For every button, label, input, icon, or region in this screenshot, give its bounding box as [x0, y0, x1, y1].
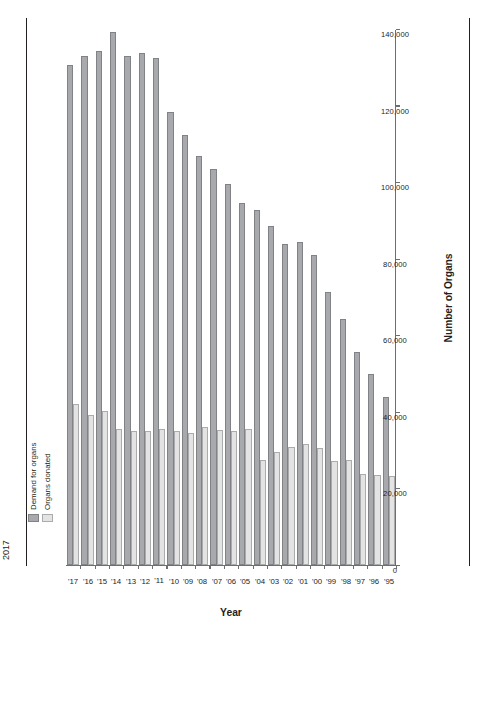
bar-donated [73, 404, 79, 565]
bar-donated [288, 447, 294, 565]
bar-donated [231, 431, 237, 565]
bar-donated [331, 461, 337, 565]
category-tick-label: '98 [341, 577, 351, 586]
category-tick-label: '05 [240, 577, 250, 586]
category-axis-line [66, 565, 396, 566]
category-tick [367, 566, 368, 570]
page-rule-bottom [469, 18, 470, 566]
value-tick-label: 80,000 [383, 260, 407, 269]
bar-donated [245, 429, 251, 565]
category-tick [238, 566, 239, 570]
legend-swatch-icon [28, 514, 39, 522]
legend-item: Organs donated [42, 442, 53, 522]
value-tick-label: 40,000 [383, 413, 407, 422]
category-tick [152, 566, 153, 570]
bar-donated [317, 448, 323, 565]
category-tick [224, 566, 225, 570]
category-tick-label: '04 [255, 577, 265, 586]
bar-donated [360, 474, 366, 565]
legend-swatch-icon [42, 514, 53, 522]
figure-page: EXHIBIT 29.1 Demand for Organs and Total… [0, 0, 495, 712]
bar-donated [260, 460, 266, 565]
category-tick-label: '97 [355, 577, 365, 586]
category-tick-label: '99 [326, 577, 336, 586]
category-tick-label: '13 [125, 577, 135, 586]
category-tick-label: '02 [283, 577, 293, 586]
value-tick-label: 60,000 [383, 336, 407, 345]
bar-donated [303, 444, 309, 565]
bar-donated [159, 429, 165, 565]
bar-donated [217, 430, 223, 565]
page-rule-top [26, 18, 27, 566]
category-tick [195, 566, 196, 570]
exhibit-caption-text: Demand for Organs and Total Number of Or… [0, 410, 14, 560]
bar-donated [88, 415, 94, 565]
category-tick-label: '11 [154, 576, 164, 585]
category-tick-label: '09 [183, 577, 193, 586]
category-tick-label: '17 [68, 577, 78, 586]
category-tick [281, 566, 282, 570]
category-tick [296, 566, 297, 570]
chart-legend: Demand for organsOrgans donated [28, 442, 53, 522]
category-tick-label: '01 [298, 577, 308, 586]
category-tick [80, 566, 81, 570]
bar-donated [174, 431, 180, 565]
category-tick [166, 566, 167, 570]
legend-label: Demand for organs [29, 442, 38, 510]
bar-donated [131, 431, 137, 565]
category-tick-label: '00 [312, 577, 322, 586]
category-tick [181, 566, 182, 570]
legend-item: Demand for organs [28, 442, 39, 522]
category-tick [353, 566, 354, 570]
category-tick-label: '16 [82, 577, 92, 586]
value-axis-title: Number of Organs [443, 254, 454, 343]
category-tick [123, 566, 124, 570]
category-tick-label: '10 [169, 577, 179, 586]
category-tick-label: '12 [140, 577, 150, 586]
bar-donated [374, 475, 380, 565]
category-tick [310, 566, 311, 570]
category-tick [95, 566, 96, 570]
category-tick-label: '03 [269, 577, 279, 586]
category-tick [324, 566, 325, 570]
exhibit-caption: EXHIBIT 29.1 Demand for Organs and Total… [0, 410, 14, 560]
category-tick [209, 566, 210, 570]
category-tick-label: '07 [212, 577, 222, 586]
bar-donated [274, 452, 280, 565]
category-tick [138, 566, 139, 570]
category-tick-label: '14 [111, 577, 121, 586]
value-tick-label: 100,000 [381, 183, 409, 192]
plot-area: 020,00040,00060,00080,000100,000120,0001… [66, 30, 396, 566]
category-tick [339, 566, 340, 570]
category-tick [396, 566, 397, 570]
bar-donated [188, 433, 194, 565]
bar-donated [145, 431, 151, 565]
category-tick [253, 566, 254, 570]
bar-donated [102, 411, 108, 565]
bar-donated [346, 460, 352, 565]
category-tick [267, 566, 268, 570]
bar-chart: Demand for organsOrgans donated 020,0004… [30, 30, 450, 566]
category-tick [109, 566, 110, 570]
category-tick-label: '08 [197, 577, 207, 586]
value-tick-label: 140,000 [381, 30, 409, 39]
category-tick-label: '15 [97, 577, 107, 586]
value-tick-label: 20,000 [383, 489, 407, 498]
value-tick-label: 120,000 [381, 107, 409, 116]
bar-donated [202, 427, 208, 565]
category-tick-label: '06 [226, 577, 236, 586]
category-axis-title: Year [220, 607, 242, 618]
bar-donated [116, 429, 122, 565]
category-tick-label: '95 [384, 577, 394, 586]
category-tick-label: '96 [369, 577, 379, 586]
category-tick [382, 566, 383, 570]
legend-label: Organs donated [43, 453, 52, 510]
